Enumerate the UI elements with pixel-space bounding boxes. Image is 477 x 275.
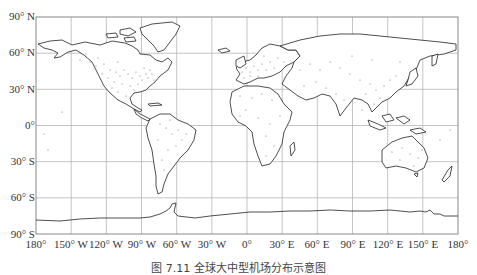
lon-label-120e: 120° E (373, 238, 403, 250)
north-america (38, 40, 172, 112)
lat-label-30s: 30° S (11, 156, 35, 167)
lon-label-90w: 90° W (128, 238, 156, 250)
lat-label-60s: 60° S (11, 192, 35, 203)
lat-label-0: 0° (25, 120, 35, 131)
lon-label-150e: 150° E (408, 238, 438, 250)
lat-label-90n: 90° N (9, 11, 35, 22)
lon-label-180w: 180° (26, 238, 47, 250)
south-america (146, 114, 196, 194)
lon-label-120w: 120° W (89, 238, 123, 250)
lon-label-30w: 30° W (198, 238, 226, 250)
greenland (140, 22, 180, 52)
lon-label-0: 0° (242, 238, 252, 250)
lon-label-90e: 90° E (341, 238, 366, 250)
lat-label-30n: 30° N (9, 84, 35, 95)
figure-caption: 图 7.11 全球大中型机场分布示意图 (0, 259, 477, 275)
lon-label-60w: 60° W (163, 238, 191, 250)
lon-label-150w: 150° W (54, 238, 88, 250)
lat-label-60n: 60° N (9, 47, 35, 58)
africa (230, 86, 292, 166)
australia (382, 136, 428, 172)
asia (280, 34, 456, 116)
lon-label-180e: 180° (448, 238, 469, 250)
lon-label-60e: 60° E (305, 238, 330, 250)
lon-label-30e: 30° E (270, 238, 295, 250)
